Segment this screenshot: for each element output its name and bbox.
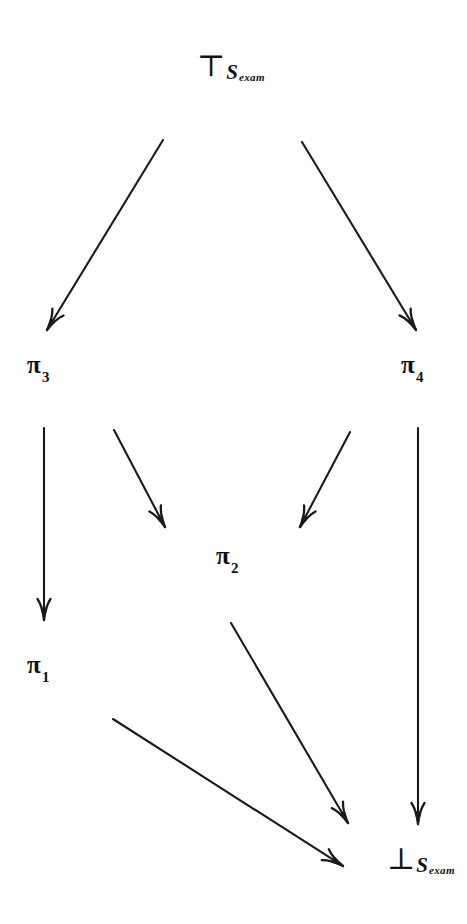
edge-shaft [302, 142, 415, 329]
node-pi4: π4 [401, 352, 423, 382]
node-pi2-symbol: π [216, 542, 230, 569]
node-pi1: π1 [27, 652, 49, 682]
node-bottom-base-letter: S [416, 855, 428, 876]
edge-pi3-to-pi2 [114, 430, 165, 527]
node-pi3-subscript: 3 [42, 369, 50, 385]
edge-arrowhead-tip [157, 515, 165, 527]
node-pi4-symbol: π [401, 351, 415, 378]
lattice-diagram: ⊤Sexam π3 π4 π2 π1 ⊥Sexam [0, 0, 467, 924]
edge-shaft [301, 432, 350, 526]
edge-shaft [113, 719, 342, 865]
arrow-layer [0, 0, 467, 924]
edge-shaft [231, 623, 347, 822]
edge-pi3-to-pi1 [37, 428, 50, 620]
node-pi2: π2 [216, 543, 238, 573]
node-pi3-symbol: π [27, 351, 41, 378]
edge-arrowhead-tip [41, 608, 47, 620]
edge-top-to-pi3 [47, 140, 163, 330]
edge-shaft [114, 430, 164, 526]
node-top-element: ⊤Sexam [197, 55, 263, 81]
node-top-base-letter: S [226, 62, 238, 83]
node-bottom-element: ⊥Sexam [387, 848, 453, 874]
edge-top-to-pi4 [302, 142, 416, 330]
node-top-subscript: exam [239, 72, 265, 83]
edge-pi4-to-bottom [411, 428, 424, 824]
edge-arrowhead-tip [300, 515, 308, 527]
up-tack-icon: ⊥ [387, 846, 415, 872]
node-pi4-subscript: 4 [416, 369, 424, 385]
edge-pi1-to-bottom [113, 719, 343, 866]
node-bottom-subscript: exam [429, 865, 455, 876]
node-pi1-symbol: π [27, 651, 41, 678]
down-tack-icon: ⊤ [197, 53, 225, 79]
node-pi2-subscript: 2 [231, 560, 239, 576]
edge-pi4-to-pi2 [300, 432, 350, 527]
edge-shaft [48, 140, 163, 329]
node-pi1-subscript: 1 [42, 669, 50, 685]
edge-pi2-to-bottom [231, 623, 348, 823]
node-pi3: π3 [27, 352, 49, 382]
edge-arrowhead-tip [415, 812, 421, 824]
